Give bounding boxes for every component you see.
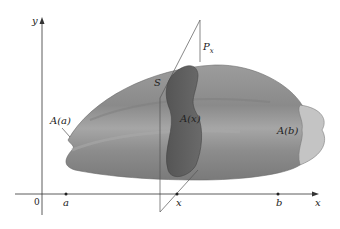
area-x-label: A(x) — [179, 113, 201, 124]
end-cap-b — [299, 105, 325, 165]
area-a-pointer — [62, 128, 70, 137]
origin-label: 0 — [34, 197, 40, 207]
tick-label-b: b — [276, 197, 282, 208]
area-a-label: A(a) — [49, 115, 71, 126]
x-axis-label: x — [315, 197, 321, 208]
tick-a — [65, 193, 68, 196]
tick-b — [277, 193, 280, 196]
tick-label-x: x — [176, 197, 182, 208]
tick-x — [176, 193, 179, 196]
plane-label: Px — [202, 41, 214, 55]
y-axis: y — [31, 15, 45, 215]
solid-volume-diagram: y 0 a x b x S Px A(a) A(x) A(b) — [0, 0, 340, 229]
diagram-canvas: y 0 a x b x S Px A(a) A(x) A(b) — [0, 0, 340, 229]
tick-label-a: a — [63, 197, 69, 208]
x-axis — [15, 192, 319, 197]
solid-label: S — [154, 77, 161, 88]
area-b-label: A(b) — [276, 125, 299, 136]
y-axis-label: y — [31, 15, 38, 26]
